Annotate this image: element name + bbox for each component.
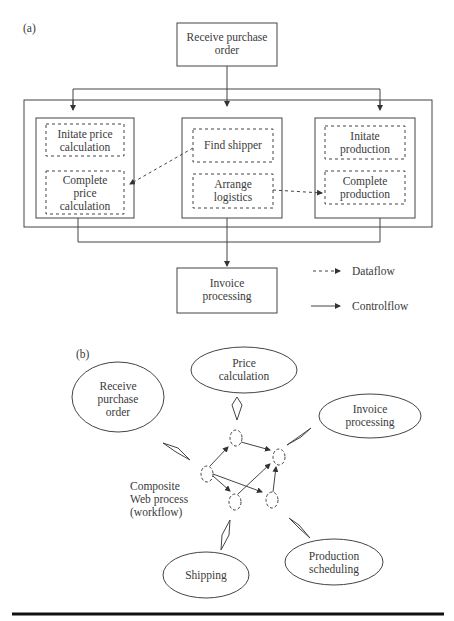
- task-complete-production: Complete production: [330, 175, 400, 201]
- receive-order-label: Receive purchase order: [180, 31, 274, 57]
- service-production: Production scheduling: [300, 550, 368, 576]
- service-shipping: Shipping: [176, 569, 236, 582]
- panel-a-label: (a): [23, 22, 36, 35]
- task-complete-price: Complete price calculation: [50, 174, 120, 213]
- invoice-label: Invoice processing: [195, 277, 259, 303]
- composite-process-label: Composite Web process (workflow): [130, 480, 202, 519]
- task-init-production: Initate production: [330, 130, 400, 156]
- panel-b-label: (b): [76, 348, 89, 361]
- task-find-shipper: Find shipper: [195, 139, 271, 152]
- service-receive: Receive purchase order: [92, 380, 144, 419]
- task-init-price: Initate price calculation: [48, 128, 122, 154]
- service-invoice: Invoice processing: [335, 403, 405, 429]
- service-price: Price calculation: [214, 357, 274, 383]
- task-arrange-logistics: Arrange logistics: [205, 178, 261, 204]
- legend-dataflow: Dataflow: [352, 265, 395, 278]
- legend-controlflow: Controlflow: [352, 300, 408, 313]
